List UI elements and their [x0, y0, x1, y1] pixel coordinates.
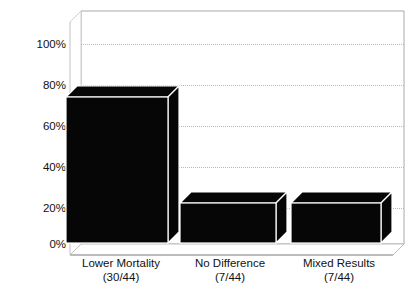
bars-layer	[0, 0, 414, 294]
bar-top-face	[66, 86, 179, 97]
bar-top-face	[291, 192, 392, 203]
x-axis-label-line2: (30/44)	[56, 270, 186, 284]
x-axis-label-no-difference: No Difference (7/44)	[172, 256, 288, 284]
x-axis-label-line2: (7/44)	[172, 270, 288, 284]
x-axis-label-mixed-results: Mixed Results (7/44)	[283, 256, 395, 284]
x-axis-label-lower-mortality: Lower Mortality (30/44)	[56, 256, 186, 284]
x-axis-label-line2: (7/44)	[283, 270, 395, 284]
bar-mixed-results[interactable]	[291, 192, 392, 243]
bar-chart: 100% 80% 60% 40% 20% 0%	[0, 0, 414, 294]
bar-front-face	[291, 203, 381, 243]
x-axis-label-line1: Mixed Results	[283, 256, 395, 270]
bar-no-difference[interactable]	[180, 192, 287, 243]
bar-front-face	[180, 203, 276, 243]
x-axis-label-line1: Lower Mortality	[56, 256, 186, 270]
bar-top-face	[180, 192, 287, 203]
x-axis-label-line1: No Difference	[172, 256, 288, 270]
bar-side-face	[168, 86, 179, 243]
bar-lower-mortality[interactable]	[66, 86, 179, 243]
bar-front-face	[66, 97, 168, 243]
